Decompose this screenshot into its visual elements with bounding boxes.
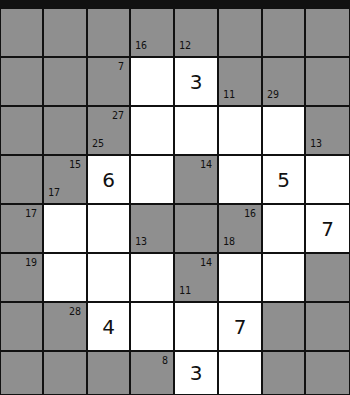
cell-digit <box>88 205 129 252</box>
cell-digit <box>219 156 261 203</box>
cell-digit <box>131 254 173 301</box>
block-cell <box>44 9 86 56</box>
cell-digit <box>263 205 304 252</box>
block-cell <box>306 303 349 350</box>
across-clue: 15 <box>69 160 81 170</box>
across-clue: 16 <box>244 209 256 219</box>
entry-cell[interactable] <box>44 254 86 301</box>
block-cell: 1411 <box>175 254 217 301</box>
block-cell: 1618 <box>219 205 261 252</box>
block-cell <box>306 9 349 56</box>
cell-digit <box>219 352 261 394</box>
top-bar <box>0 0 350 8</box>
cell-digit <box>263 254 304 301</box>
down-clue: 17 <box>48 188 60 198</box>
entry-cell[interactable] <box>219 156 261 203</box>
block-cell: 7 <box>88 58 129 105</box>
block-cell: 8 <box>131 352 173 394</box>
entry-cell[interactable] <box>131 107 173 154</box>
down-clue: 25 <box>92 139 104 149</box>
entry-cell[interactable] <box>219 107 261 154</box>
entry-cell[interactable] <box>263 254 304 301</box>
entry-cell[interactable] <box>131 303 173 350</box>
across-clue: 8 <box>162 356 168 366</box>
block-cell <box>1 58 42 105</box>
block-cell: 14 <box>175 156 217 203</box>
down-clue: 13 <box>310 139 322 149</box>
block-cell <box>175 205 217 252</box>
entry-cell[interactable]: 3 <box>175 58 217 105</box>
block-cell <box>263 352 304 394</box>
kakuro-grid: 1612731129272513151761451713161871914112… <box>0 8 350 395</box>
block-cell: 13 <box>306 107 349 154</box>
across-clue: 17 <box>25 209 37 219</box>
block-cell <box>263 303 304 350</box>
down-clue: 11 <box>223 90 235 100</box>
across-clue: 14 <box>200 160 212 170</box>
entry-cell[interactable] <box>306 156 349 203</box>
entry-cell[interactable]: 7 <box>306 205 349 252</box>
block-cell <box>306 352 349 394</box>
cell-digit <box>131 303 173 350</box>
block-cell: 12 <box>175 9 217 56</box>
entry-cell[interactable] <box>88 254 129 301</box>
entry-cell[interactable] <box>88 205 129 252</box>
cell-digit <box>88 254 129 301</box>
across-clue: 27 <box>112 111 124 121</box>
cell-digit <box>44 205 86 252</box>
entry-cell[interactable]: 3 <box>175 352 217 394</box>
block-cell <box>1 352 42 394</box>
block-cell <box>44 352 86 394</box>
down-clue: 11 <box>179 286 191 296</box>
block-cell <box>88 352 129 394</box>
entry-cell[interactable]: 5 <box>263 156 304 203</box>
cell-digit <box>175 107 217 154</box>
cell-digit <box>44 254 86 301</box>
cell-digit <box>219 254 261 301</box>
across-clue: 14 <box>200 258 212 268</box>
across-clue: 19 <box>25 258 37 268</box>
block-cell <box>1 303 42 350</box>
cell-digit <box>131 156 173 203</box>
cell-digit <box>219 107 261 154</box>
entry-cell[interactable] <box>263 205 304 252</box>
block-cell: 29 <box>263 58 304 105</box>
block-cell <box>1 107 42 154</box>
block-cell: 28 <box>44 303 86 350</box>
entry-cell[interactable] <box>44 205 86 252</box>
entry-cell[interactable] <box>131 58 173 105</box>
block-cell <box>219 9 261 56</box>
entry-cell[interactable] <box>263 107 304 154</box>
block-cell <box>44 58 86 105</box>
cell-digit: 3 <box>175 58 217 105</box>
entry-cell[interactable] <box>219 254 261 301</box>
across-clue: 28 <box>69 307 81 317</box>
block-cell: 11 <box>219 58 261 105</box>
entry-cell[interactable]: 7 <box>219 303 261 350</box>
block-cell <box>88 9 129 56</box>
down-clue: 16 <box>135 41 147 51</box>
cell-digit: 7 <box>306 205 349 252</box>
cell-digit: 3 <box>175 352 217 394</box>
entry-cell[interactable]: 4 <box>88 303 129 350</box>
block-cell: 16 <box>131 9 173 56</box>
block-cell: 2725 <box>88 107 129 154</box>
cell-digit <box>131 58 173 105</box>
down-clue: 29 <box>267 90 279 100</box>
down-clue: 18 <box>223 237 235 247</box>
down-clue: 12 <box>179 41 191 51</box>
cell-digit <box>131 107 173 154</box>
across-clue: 7 <box>118 62 124 72</box>
entry-cell[interactable] <box>175 303 217 350</box>
block-cell <box>44 107 86 154</box>
entry-cell[interactable] <box>175 107 217 154</box>
block-cell <box>263 9 304 56</box>
cell-digit: 7 <box>219 303 261 350</box>
cell-digit <box>175 303 217 350</box>
block-cell: 19 <box>1 254 42 301</box>
entry-cell[interactable] <box>131 254 173 301</box>
entry-cell[interactable]: 6 <box>88 156 129 203</box>
entry-cell[interactable] <box>131 156 173 203</box>
entry-cell[interactable] <box>219 352 261 394</box>
block-cell <box>1 9 42 56</box>
